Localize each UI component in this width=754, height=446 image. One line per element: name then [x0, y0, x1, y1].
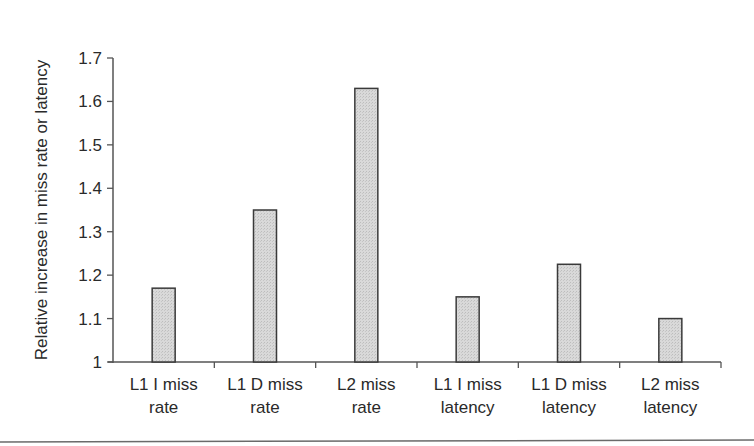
y-axis-title: Relative increase in miss rate or latenc…	[32, 59, 51, 360]
x-category-label: L1 I missrate	[130, 375, 198, 417]
chart-canvas: Relative increase in miss rate or latenc…	[0, 0, 754, 446]
x-category-label: L1 D misslatency	[531, 375, 607, 417]
x-category-label: L1 I misslatency	[434, 375, 502, 417]
x-axis-labels: L1 I missrateL1 D missrateL2 missrateL1 …	[130, 375, 700, 417]
x-axis	[108, 362, 721, 368]
bottom-rule	[0, 440, 754, 442]
y-tick-label: 1.1	[78, 310, 102, 329]
y-tick-label: 1.6	[78, 92, 102, 111]
bar-series	[152, 88, 682, 362]
y-tick-label: 1.2	[78, 266, 102, 285]
x-category-label: L2 misslatency	[641, 375, 700, 417]
bar	[558, 264, 581, 362]
bar	[659, 319, 682, 362]
bar	[456, 297, 479, 362]
y-tick-label: 1	[93, 353, 102, 372]
bar	[355, 88, 378, 362]
bar	[152, 288, 175, 362]
x-category-label: L1 D missrate	[227, 375, 303, 417]
y-axis: 11.11.21.31.41.51.61.7	[78, 49, 113, 372]
bar-chart: Relative increase in miss rate or latenc…	[0, 0, 754, 446]
y-tick-label: 1.7	[78, 49, 102, 68]
bar	[254, 210, 277, 362]
y-tick-label: 1.3	[78, 223, 102, 242]
y-tick-label: 1.4	[78, 179, 102, 198]
x-category-label: L2 missrate	[337, 375, 396, 417]
y-tick-label: 1.5	[78, 136, 102, 155]
